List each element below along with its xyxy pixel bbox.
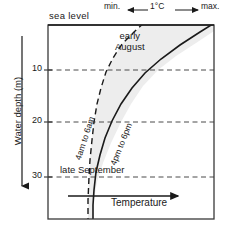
annotation-late-september: late September [60,165,124,175]
annotation-early-august-line2: August [115,42,145,53]
temperature-axis-label: Temperature [111,198,167,209]
annotation-early-august: early August [115,31,145,53]
water-depth-temperature-figure: max --> [0,0,232,232]
scale-min-label: min. [104,2,120,11]
scale-max-label: max. [201,2,219,11]
depth-tick-label-30: 30 [32,171,42,180]
sea-level-label: sea level [49,11,89,21]
depth-tick-label-20: 20 [32,116,42,125]
scale-unit-label: 1°C [150,2,164,11]
depth-axis-label: Water depth (m) [13,71,23,151]
depth-tick-label-10: 10 [32,64,42,73]
